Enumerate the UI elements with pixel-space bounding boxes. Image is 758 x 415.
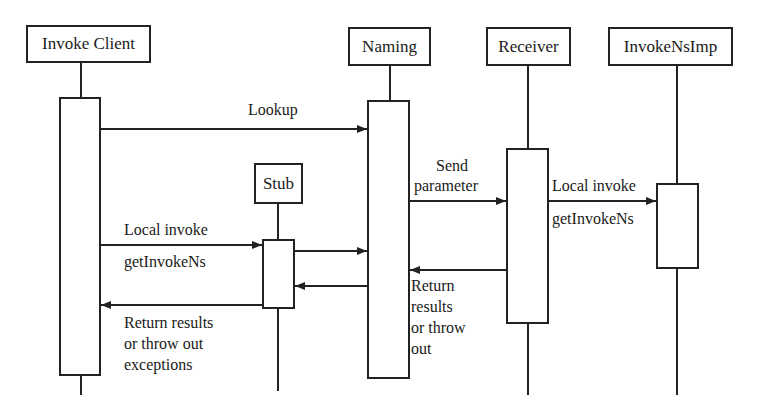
label-return-right-4: out (411, 339, 431, 358)
sequence-diagram: Invoke Client Naming Receiver InvokeNsIm… (0, 0, 758, 415)
label-parameter: parameter (414, 176, 478, 195)
label-getinvokens-left: getInvokeNs (124, 252, 206, 271)
label-return-right-3: or throw (411, 318, 466, 337)
label-return-left-2: or throw out (124, 334, 203, 353)
label-getinvokens-right: getInvokeNs (552, 209, 634, 228)
label-return-right-2: results (411, 297, 453, 316)
label-lookup: Lookup (248, 100, 298, 119)
label-send: Send (436, 156, 468, 175)
label-return-left-1: Return results (124, 313, 213, 332)
label-return-right-1: Return (411, 276, 455, 295)
message-arrows (0, 0, 758, 415)
label-local-invoke-left: Local invoke (124, 220, 208, 239)
label-return-left-3: exceptions (124, 355, 192, 374)
label-local-invoke-right: Local invoke (552, 176, 636, 195)
